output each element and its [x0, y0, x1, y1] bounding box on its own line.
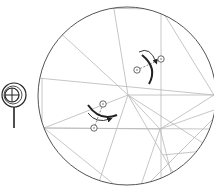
fold-arc-icon — [142, 55, 152, 84]
crease-line — [44, 128, 214, 129]
crease-line — [140, 129, 160, 188]
crease-line — [79, 8, 161, 9]
crease-line — [44, 128, 116, 186]
crease-line — [160, 95, 214, 129]
swivel-fold-upper-symbol — [134, 50, 164, 84]
crease-line — [113, 3, 128, 95]
crease-line — [54, 27, 128, 95]
repeat-behind-lens-icon — [2, 83, 26, 128]
crease-line — [160, 129, 175, 188]
crease-line — [163, 150, 214, 155]
crease-line — [44, 95, 128, 128]
crease-line — [161, 9, 214, 95]
crease-line — [128, 95, 182, 188]
fold-symbols — [88, 50, 164, 131]
crease-pattern-diagram — [0, 0, 214, 188]
swivel-fold-lower-symbol — [88, 101, 117, 131]
